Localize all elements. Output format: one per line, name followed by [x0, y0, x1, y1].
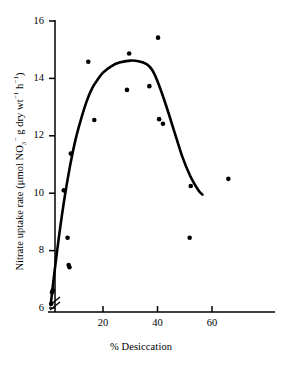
data-point [51, 288, 56, 293]
data-point [187, 235, 192, 240]
data-point [127, 51, 132, 56]
data-point [226, 177, 231, 182]
y-axis-title-supminus: − [12, 137, 20, 141]
data-point [156, 35, 161, 40]
data-point [69, 151, 74, 156]
x-axis-title: % Desiccation [0, 341, 282, 352]
data-point [65, 235, 70, 240]
data-point [161, 121, 166, 126]
data-point [92, 118, 97, 123]
x-tick-label-40: 40 [145, 318, 171, 329]
x-tick-label-20: 20 [90, 318, 116, 329]
y-axis-title-sup1a: −1 [12, 92, 20, 100]
y-axis-title-mid: g dry wt [14, 99, 25, 137]
y-axis-title-lead: Nitrate uptake rate (μmol NO [14, 145, 25, 270]
y-tick-label-6: 6 [22, 303, 44, 314]
y-tick-label-14: 14 [22, 73, 44, 84]
data-point [188, 184, 193, 189]
x-axis-ticks [103, 306, 212, 312]
data-point [86, 59, 91, 64]
y-axis-title-sup1b: −1 [12, 76, 20, 84]
y-axis-title-mid2: h [14, 84, 25, 92]
y-tick-label-8: 8 [22, 245, 44, 256]
y-axis-title-sub3: 3 [20, 142, 28, 146]
y-tick-label-16: 16 [22, 16, 44, 27]
data-points [49, 35, 231, 306]
data-point [157, 117, 162, 122]
data-point [125, 88, 130, 93]
y-tick-label-10: 10 [22, 188, 44, 199]
data-point [49, 301, 54, 306]
axes [48, 20, 275, 312]
y-axis-title: Nitrate uptake rate (μmol NO3− g dry wt−… [14, 22, 25, 322]
data-point [147, 84, 152, 89]
fit-curve [51, 61, 203, 306]
x-tick-label-60: 60 [199, 318, 225, 329]
y-tick-label-12: 12 [22, 130, 44, 141]
y-axis-title-tail: ) [14, 72, 25, 76]
data-point [67, 265, 72, 270]
figure-container: 6810121416 204060 % Desiccation Nitrate … [0, 0, 282, 365]
data-point [61, 188, 66, 193]
